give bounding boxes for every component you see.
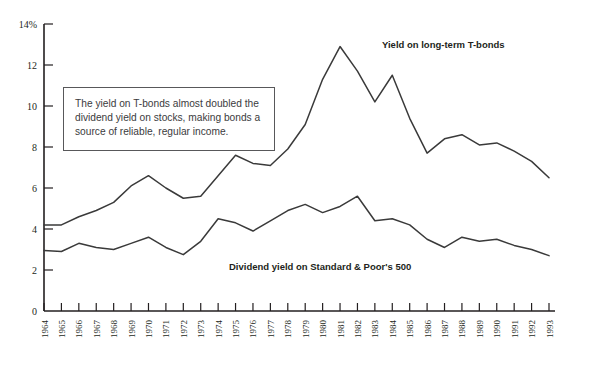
x-tick-label: 1992 bbox=[527, 320, 537, 338]
x-tick-label: 1975 bbox=[231, 320, 241, 339]
x-tick-label: 1964 bbox=[40, 320, 50, 339]
x-tick-label: 1987 bbox=[440, 320, 450, 339]
callout-box: The yield on T-bonds almost doubled the … bbox=[63, 87, 275, 151]
x-tick-label: 1977 bbox=[266, 320, 276, 339]
x-tick-label: 1986 bbox=[423, 320, 433, 339]
y-tick-label: 8 bbox=[32, 142, 37, 153]
x-tick-label: 1969 bbox=[127, 320, 137, 339]
x-tick-label: 1988 bbox=[457, 320, 467, 339]
x-tick-label: 1983 bbox=[370, 320, 380, 339]
y-tick-label: 6 bbox=[32, 183, 37, 194]
x-tick-label: 1984 bbox=[388, 320, 398, 339]
x-tick-label: 1968 bbox=[109, 320, 119, 339]
x-tick-label: 1976 bbox=[248, 320, 258, 339]
x-tick-label: 1972 bbox=[179, 320, 189, 338]
dividend-series-label: Dividend yield on Standard & Poor's 500 bbox=[229, 261, 411, 272]
chart-container: 02468101214% 196419651966196719681969197… bbox=[0, 0, 604, 365]
x-tick-label: 1973 bbox=[196, 320, 206, 339]
x-tick-label: 1990 bbox=[492, 320, 502, 339]
x-tick-label: 1993 bbox=[545, 320, 555, 339]
x-tick-label: 1982 bbox=[353, 320, 363, 338]
y-tick-label: 12 bbox=[27, 60, 37, 71]
y-tick-label: 4 bbox=[32, 224, 37, 235]
x-tick-label: 1967 bbox=[92, 320, 102, 339]
x-tick-label: 1978 bbox=[283, 320, 293, 339]
x-tick-labels: 1964196519661967196819691970197119721973… bbox=[40, 320, 555, 339]
y-tick-label: 0 bbox=[32, 306, 37, 317]
x-tick-label: 1980 bbox=[318, 320, 328, 339]
x-tick-label: 1974 bbox=[214, 320, 224, 339]
y-tick-label: 10 bbox=[27, 101, 37, 112]
dividend-yield-line bbox=[44, 196, 549, 255]
x-tick-label: 1970 bbox=[144, 320, 154, 339]
x-tick-label: 1979 bbox=[301, 320, 311, 339]
x-tick-label: 1966 bbox=[74, 320, 84, 339]
series-lines bbox=[44, 47, 549, 256]
x-tick-label: 1991 bbox=[510, 320, 520, 338]
y-tick-label: 14% bbox=[19, 19, 37, 30]
x-axis bbox=[44, 303, 555, 311]
y-axis: 02468101214% bbox=[19, 19, 53, 317]
tbond-series-label: Yield on long-term T-bonds bbox=[382, 39, 505, 50]
x-tick-label: 1989 bbox=[475, 320, 485, 339]
y-tick-label: 2 bbox=[32, 265, 37, 276]
line-chart-plot: 02468101214% 196419651966196719681969197… bbox=[0, 0, 604, 365]
x-tick-label: 1965 bbox=[57, 320, 67, 339]
x-tick-label: 1981 bbox=[336, 320, 346, 338]
x-tick-label: 1985 bbox=[405, 320, 415, 339]
x-tick-label: 1971 bbox=[161, 320, 171, 338]
callout-text: The yield on T-bonds almost doubled the … bbox=[75, 97, 263, 140]
